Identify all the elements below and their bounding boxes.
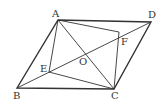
segment-ec	[49, 72, 114, 89]
label-e: E	[40, 63, 47, 74]
label-o: O	[79, 56, 87, 67]
label-b: B	[13, 90, 20, 101]
label-d: D	[148, 9, 156, 20]
label-c: C	[111, 90, 119, 101]
label-a: A	[51, 8, 60, 19]
label-f: F	[121, 36, 128, 47]
parallelogram-diagram: A D F O E B C	[0, 0, 166, 101]
